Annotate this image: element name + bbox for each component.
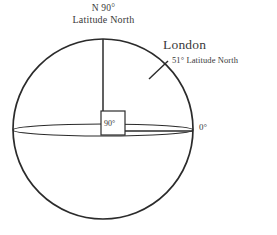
north-pole-caption: Latitude North — [0, 14, 207, 26]
right-angle-label: 90° — [104, 119, 115, 128]
north-pole-label: N 90° Latitude North — [0, 3, 207, 25]
london-tick-icon — [149, 61, 168, 79]
london-label: London — [163, 37, 206, 53]
sphere-figure — [0, 0, 277, 235]
north-pole-degrees: N 90° — [0, 3, 207, 14]
equator-degree-label: 0° — [199, 122, 207, 132]
london-latitude-label: 51° Latitude North — [172, 56, 238, 66]
latitude-diagram: N 90° Latitude North London 51° Latitude… — [0, 0, 277, 235]
